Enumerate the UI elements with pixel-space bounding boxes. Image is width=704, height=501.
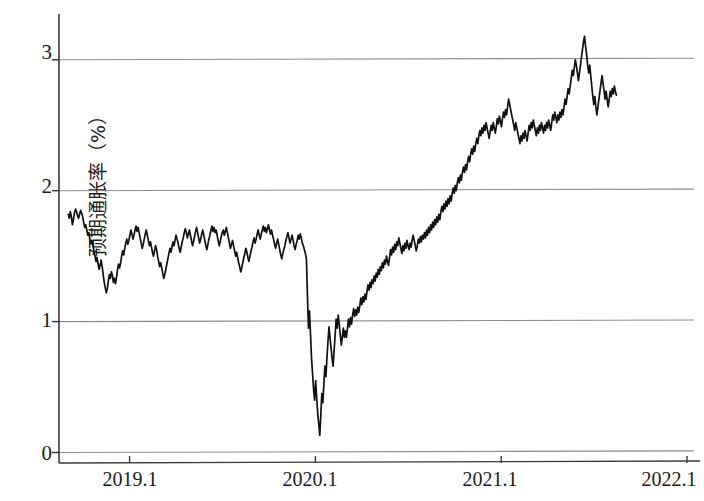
gridline-3	[59, 58, 694, 60]
axis-lines	[59, 14, 700, 463]
plot-area	[0, 0, 704, 501]
inflation-expectation-chart: 预期通胀率（%） 3 2 1 0 2019.1 2020.1 2021.1 20…	[0, 0, 704, 501]
gridline-1	[59, 320, 694, 322]
gridline-2	[59, 189, 694, 191]
y-tick-marks	[52, 60, 59, 453]
series-line-expected-inflation	[68, 36, 616, 435]
gridline-0	[59, 451, 694, 453]
x-axis-line	[59, 461, 700, 463]
